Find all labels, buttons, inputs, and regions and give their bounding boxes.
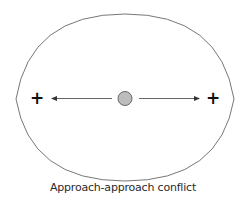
- left-goal-plus: +: [30, 90, 44, 107]
- right-arrow: [139, 96, 200, 101]
- person-circle: [118, 92, 132, 106]
- left-arrow: [51, 96, 112, 101]
- right-goal-plus: +: [206, 90, 220, 107]
- diagram-caption: Approach-approach conflict: [0, 181, 246, 194]
